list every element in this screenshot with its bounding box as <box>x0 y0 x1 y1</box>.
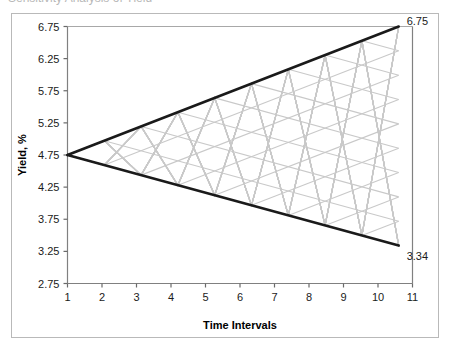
x-tick-label: 7 <box>271 291 277 303</box>
chart-series <box>68 27 399 246</box>
y-tick-label: 3.75 <box>38 213 59 225</box>
y-tick-label: 4.75 <box>38 149 59 161</box>
x-tick-label: 4 <box>168 291 174 303</box>
x-tick-label: 5 <box>202 291 208 303</box>
y-tick-label: 5.25 <box>38 117 59 129</box>
y-tick-label: 6.25 <box>38 53 59 65</box>
y-tick-label: 2.75 <box>38 278 59 290</box>
x-tick-label: 8 <box>306 291 312 303</box>
x-tick-label: 1 <box>64 291 70 303</box>
x-axis-title: Time Intervals <box>203 319 277 331</box>
lower-end-label: 3.34 <box>407 250 428 262</box>
chart-canvas: 2.753.253.754.254.755.255.756.256.751234… <box>0 0 453 351</box>
x-tick-label: 11 <box>407 291 418 303</box>
x-tick-label: 3 <box>133 291 139 303</box>
y-tick-label: 4.25 <box>38 181 59 193</box>
y-tick-label: 6.75 <box>38 21 59 33</box>
y-axis-title: Yield, % <box>16 134 28 176</box>
x-tick-label: 9 <box>340 291 346 303</box>
series-line-lower-bound <box>68 155 399 246</box>
y-tick-label: 3.25 <box>38 245 59 257</box>
series-line-upper-bound <box>68 27 399 156</box>
upper-end-label: 6.75 <box>407 15 428 27</box>
x-tick-label: 10 <box>372 291 384 303</box>
x-tick-label: 2 <box>99 291 105 303</box>
x-tick-label: 6 <box>237 291 243 303</box>
y-tick-label: 5.75 <box>38 85 59 97</box>
